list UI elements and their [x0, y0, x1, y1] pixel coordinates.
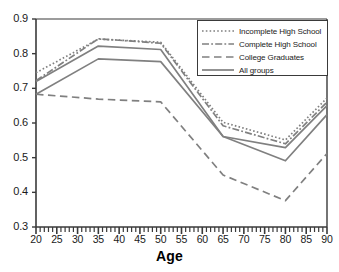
legend-label: All groups: [239, 66, 274, 75]
x-tick-label: 40: [108, 234, 130, 245]
y-tick-label: 0.7: [2, 82, 28, 93]
y-tick-label: 0.3: [2, 221, 28, 232]
legend-line-swatch: [201, 52, 235, 62]
legend-item: Incomplete High School: [201, 25, 327, 37]
x-tick-label: 35: [87, 234, 109, 245]
line-chart: 0.30.40.50.60.70.80.9 202530354045505560…: [0, 0, 339, 272]
legend-item: All groups: [201, 64, 327, 76]
x-tick-label: 75: [254, 234, 276, 245]
x-tick-label: 65: [212, 234, 234, 245]
y-tick-label: 0.8: [2, 48, 28, 59]
y-tick-label: 0.4: [2, 186, 28, 197]
x-tick-label: 25: [46, 234, 68, 245]
legend: Incomplete High SchoolComplete High Scho…: [197, 20, 328, 76]
x-tick-label: 70: [233, 234, 255, 245]
x-tick-label: 80: [274, 234, 296, 245]
x-tick-label: 45: [129, 234, 151, 245]
legend-label: Complete High School: [239, 40, 317, 49]
x-tick-label: 30: [67, 234, 89, 245]
x-tick-label: 55: [171, 234, 193, 245]
legend-line-swatch: [201, 39, 235, 49]
y-tick-label: 0.9: [2, 13, 28, 24]
legend-item: College Graduates: [201, 51, 327, 63]
y-tick-label: 0.6: [2, 117, 28, 128]
legend-item: Complete High School: [201, 38, 327, 50]
legend-label: Incomplete High School: [239, 27, 321, 36]
x-axis-title: Age: [0, 248, 339, 264]
x-tick-label: 50: [150, 234, 172, 245]
x-tick-label: 20: [25, 234, 47, 245]
x-tick-label: 60: [191, 234, 213, 245]
y-tick-label: 0.5: [2, 152, 28, 163]
x-tick-label: 85: [295, 234, 317, 245]
x-tick-label: 90: [316, 234, 338, 245]
legend-line-swatch: [201, 65, 235, 75]
legend-line-swatch: [201, 26, 235, 36]
legend-label: College Graduates: [239, 53, 304, 62]
